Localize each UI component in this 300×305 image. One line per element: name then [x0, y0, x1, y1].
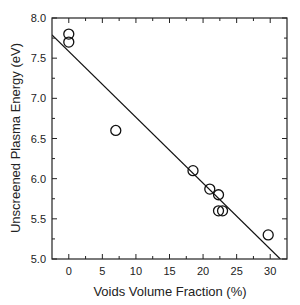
- y-tick-label: 8.0: [31, 12, 46, 24]
- data-point: [263, 230, 273, 240]
- y-tick-label: 7.5: [31, 52, 46, 64]
- y-tick-label: 6.5: [31, 133, 46, 145]
- x-tick-label: 25: [231, 265, 243, 277]
- x-axis-label: Voids Volume Fraction (%): [93, 284, 246, 299]
- x-tick-label: 20: [197, 265, 209, 277]
- y-tick-label: 6.0: [31, 173, 46, 185]
- x-tick-label: 30: [264, 265, 276, 277]
- y-tick-label: 7.0: [31, 92, 46, 104]
- x-tick-label: 10: [130, 265, 142, 277]
- y-tick-label: 5.5: [31, 213, 46, 225]
- x-tick-label: 0: [66, 265, 72, 277]
- data-point: [111, 125, 121, 135]
- y-axis-label: Unscreened Plasma Energy (eV): [8, 43, 23, 233]
- x-tick-label: 5: [99, 265, 105, 277]
- scatter-chart: 0510152025305.05.56.06.57.07.58.0 Voids …: [0, 0, 300, 305]
- data-layer: [52, 29, 280, 259]
- plot-frame: [52, 18, 287, 259]
- y-tick-label: 5.0: [31, 253, 46, 265]
- fit-line: [52, 35, 280, 259]
- x-tick-label: 15: [163, 265, 175, 277]
